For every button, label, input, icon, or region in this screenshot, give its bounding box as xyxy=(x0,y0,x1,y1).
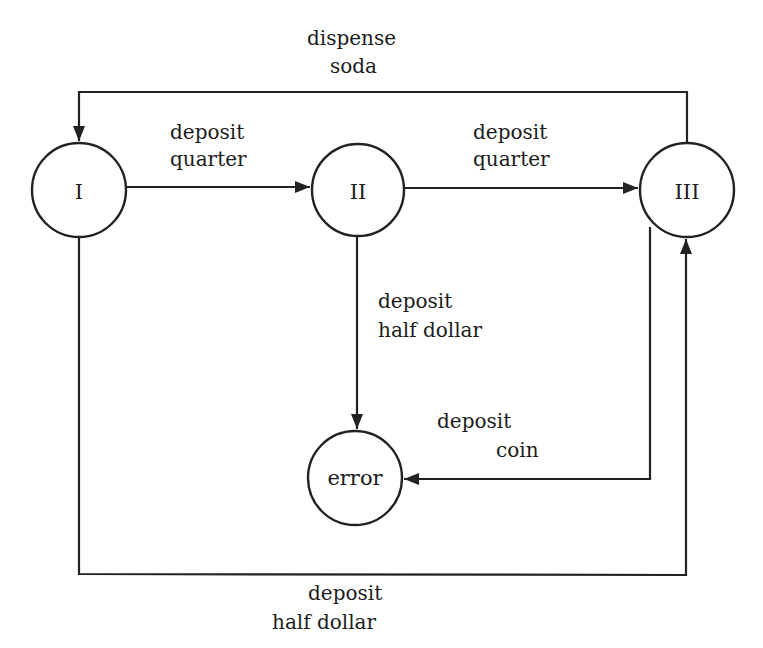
state-node-i: I xyxy=(32,143,126,237)
edge-label-deposit: deposit xyxy=(308,581,382,605)
edge-label-coin: coin xyxy=(496,438,539,462)
edge-label-soda: soda xyxy=(330,54,377,78)
edge-label-deposit: deposit xyxy=(473,120,547,144)
edge-iii-to-error: deposit coin xyxy=(404,227,650,479)
edge-label-deposit: deposit xyxy=(170,120,244,144)
edge-label-deposit: deposit xyxy=(437,409,511,433)
state-label: error xyxy=(327,466,383,490)
edge-ii-to-iii: deposit quarter xyxy=(404,120,638,188)
state-label: I xyxy=(75,180,83,204)
state-label: III xyxy=(675,180,700,204)
state-diagram: dispense soda deposit quarter deposit qu… xyxy=(0,0,763,648)
edge-label-quarter: quarter xyxy=(170,147,247,171)
edge-label-quarter: quarter xyxy=(473,147,550,171)
state-node-error: error xyxy=(308,431,402,525)
edge-ii-to-error: deposit half dollar xyxy=(357,237,483,429)
edge-label-deposit: deposit xyxy=(378,289,452,313)
state-label: II xyxy=(350,180,367,204)
edge-label-dispense: dispense xyxy=(307,26,396,50)
edge-i-to-ii: deposit quarter xyxy=(126,120,310,187)
edge-label-half-dollar: half dollar xyxy=(272,610,377,634)
edge-label-half-dollar: half dollar xyxy=(378,318,483,342)
state-node-ii: II xyxy=(312,144,404,236)
state-node-iii: III xyxy=(640,143,734,237)
